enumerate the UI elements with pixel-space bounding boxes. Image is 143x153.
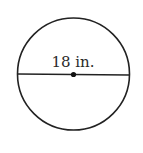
- center-point: [71, 72, 76, 77]
- diameter-label: 18 in.: [51, 53, 94, 71]
- circle-diagram: 18 in.: [0, 0, 143, 153]
